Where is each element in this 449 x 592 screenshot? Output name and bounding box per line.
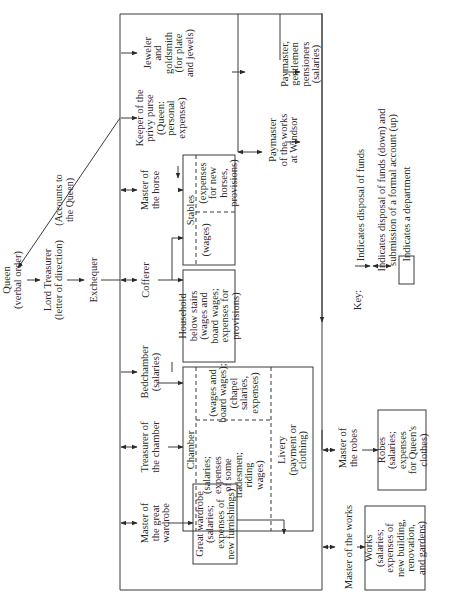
master-wardrobe-label-line: Master of [139,502,150,543]
master-wardrobe-label: Master ofthe greatwardrobe [139,502,171,543]
robes-label-line: clothes) [418,433,430,467]
privy-purse-label-line: privy purse [144,94,155,142]
master-works-label-line: Master of the works [343,505,354,589]
great-wardrobe-label-line: expenses of [215,499,226,549]
jeweler-label-line: and jewels) [184,28,196,77]
cofferer-label-line: Cofferer [140,262,151,298]
works-label-line: renovation, [405,524,416,572]
key-title: Key: [352,290,363,310]
lord-treasurer-label-line: (letter of direction) [53,240,65,320]
chamber-left-text-line: riding [243,462,254,488]
key-item-department: Indicates a department [401,166,412,261]
chamber-title-line: Chamber [185,430,196,469]
chamber-left-text-line: of some [222,458,233,492]
privy-purse-label-line: personal [165,100,176,136]
privy-purse-label-line: Keeper of the [134,89,145,146]
master-horse-label-line: the horse [150,171,161,210]
paymaster-pensioners-label-line: gentlemen [289,41,300,85]
household-label: Householdbelow stairs(wages andboard wag… [177,288,242,344]
exchequer-label-line: Exchequer [88,257,99,302]
jeweler-label-line: goldsmith [163,31,174,74]
treasurer-chamber-label-line: the chamber [150,421,161,473]
bedchamber-label-line: Bedchamber [139,345,150,399]
robes-label-line: Robes [376,437,387,463]
chamber-title: Chamber [185,430,196,469]
works-label-line: Works [363,534,374,561]
master-horse-label-line: Master of [139,169,150,210]
paymaster-windsor-label: Paymasterof the worksat Windsor [267,114,299,167]
household-label-line: below stairs [188,291,199,341]
stables-title: Stables [185,195,196,225]
works-label-line: expenses of [384,523,395,573]
master-robes-label: Master ofthe robes [337,427,359,468]
paymaster-windsor-label-line: of the works [278,114,289,167]
queen-label-line: Queen [1,266,12,294]
paymaster-pensioners-label: Paymaster,gentlemenpensioners(salaries) [279,41,323,87]
livery-label-line: Livery [276,435,287,464]
chamber-left-text-line: expenses [212,456,223,494]
works-label-line: new building, [395,519,406,577]
jeweler-label: Jewelerandgoldsmith(for plateand jewels) [142,28,196,77]
key-item-disposal-account: Indicates disposal of funds (down) andsu… [376,108,399,272]
queen-label-line: (verbal order) [12,250,24,309]
key-item-disposal-account-line: submission of a formal account (up) [387,114,399,266]
key-item-disposal-line: Indicates disposal of funds [355,149,366,261]
privy-purse-label-line: expenses) [176,97,188,139]
key-item-disposal: Indicates disposal of funds [355,149,366,261]
exchequer-label: Exchequer [88,257,99,302]
treasurer-chamber-label-line: Treasurer of [139,421,150,473]
chamber-left-text-line: wages) [254,460,266,490]
chamber-right-text-line: salaries, [238,376,249,410]
stables-expenses-line: horses, [218,168,229,197]
household-label-line: Household [177,293,188,339]
paymaster-windsor-label-line: at Windsor [288,117,299,163]
paymaster-pensioners-label-line: Paymaster, [279,41,290,87]
chamber-right-text: (wages andboard wages);(chapelsalaries,e… [207,363,261,422]
household-finance-diagram: Queen(verbal order)Lord Treasurer(letter… [0,0,449,592]
master-works-label: Master of the works [343,505,354,589]
privy-purse-label: Keeper of theprivy purse(Queen:personale… [134,89,188,146]
key-title-line: Key: [352,290,363,310]
jeweler-label-line: Jeweler [142,36,153,69]
livery-label: Livery(payment orclothing) [276,424,309,476]
household-label-line: board wages; [209,288,220,344]
robes-label-line: for Queen's [407,426,418,474]
chamber-right-text-line: expenses) [249,372,261,414]
lord-treasurer-label: Lord Treasurer(letter of direction) [42,240,65,320]
master-robes-label-line: Master of [337,427,348,468]
key-item-department-line: Indicates a department [401,166,412,261]
works-label-line: and gardens) [416,521,428,575]
bedchamber-label-line: (salaries) [150,352,162,391]
great-wardrobe-label-line: new furnishings) [225,488,237,559]
master-horse-label: Master ofthe horse [139,169,161,210]
stables-expenses: (expensesfor newhorses,provisions) [197,159,241,207]
great-wardrobe-label: Great wardrobe(salaries;expenses ofnew f… [194,488,238,559]
robes-label-line: expenses [397,431,408,469]
cofferer-label: Cofferer [140,262,151,298]
master-robes-label-line: the robes [348,429,359,467]
works-label: Works(salaries;expenses ofnew building,r… [363,519,428,577]
household-label-line: provisions) [230,292,242,340]
paymaster-windsor-label-line: Paymaster [267,118,278,162]
jeweler-label-line: and [152,45,163,61]
accounts-to-queen-label-line: the Queen) [64,178,76,222]
stables-wages-line: (wages) [200,223,212,257]
robes-label: Robes(salaries;expensesfor Queen'sclothe… [376,426,430,474]
treasurer-chamber-label: Treasurer ofthe chamber [139,421,161,473]
stables-expenses-line: for new [207,166,218,199]
accounts-to-queen-label: (Accounts tothe Queen) [53,174,76,225]
household-label-line: expenses for [219,289,230,342]
paymaster-pensioners-label-line: pensioners [300,42,311,87]
paymaster-pensioners-label-line: (salaries) [310,44,322,83]
lord-treasurer-label-line: Lord Treasurer [42,248,53,311]
stables-title-line: Stables [185,195,196,225]
great-wardrobe-label-line: Great wardrobe [194,491,205,557]
stables-wages: (wages) [200,223,212,257]
bedchamber-label: Bedchamber(salaries) [139,345,162,399]
stables-expenses-line: provisions) [228,159,240,207]
queen-label: Queen(verbal order) [1,250,24,309]
livery-label-line: clothing) [297,431,309,469]
master-wardrobe-label-line: the great [150,505,161,542]
